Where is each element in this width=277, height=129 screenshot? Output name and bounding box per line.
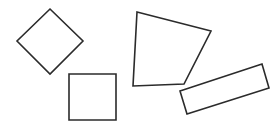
shapes-canvas [0,0,277,129]
shapes-svg [0,0,277,129]
rotated-rectangle-shape [180,64,269,114]
diamond-shape [17,9,83,74]
quadrilateral-shape [133,12,211,86]
square-shape [69,74,116,120]
